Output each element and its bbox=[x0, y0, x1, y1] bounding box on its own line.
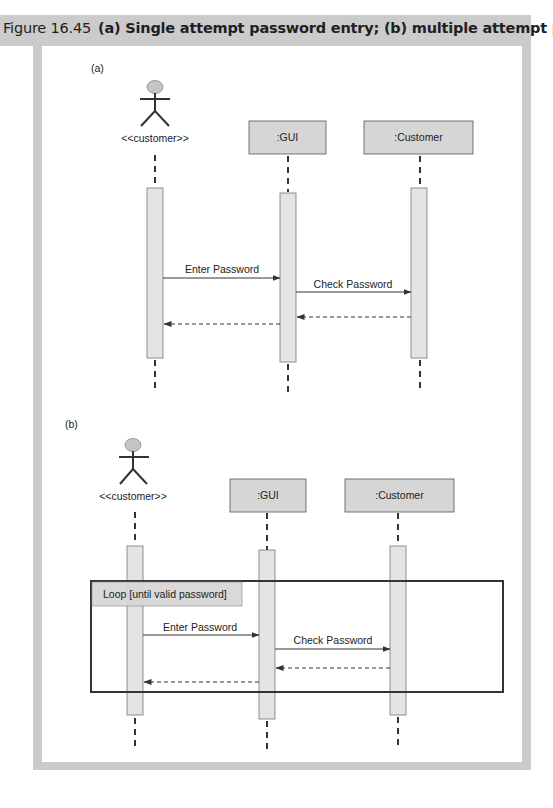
message-enter-password-a: Enter Password bbox=[163, 263, 280, 278]
activation-gui-a bbox=[280, 193, 296, 362]
diagram-b-label: (b) bbox=[65, 418, 78, 430]
message-check-password-b: Check Password bbox=[275, 634, 390, 649]
activation-actor-b bbox=[127, 546, 143, 715]
participant-gui: :GUI bbox=[249, 121, 326, 154]
activation-actor-a bbox=[147, 188, 163, 358]
actor-stick-figure-icon bbox=[119, 439, 149, 485]
diagram-b: (b) <<customer>> :GUI :Customer bbox=[65, 418, 503, 750]
activation-customer-b bbox=[390, 546, 406, 715]
participant-gui-label: :GUI bbox=[277, 131, 299, 143]
actor-label: <<customer>> bbox=[99, 490, 167, 502]
participant-gui: :GUI bbox=[230, 479, 306, 512]
participant-customer: :Customer bbox=[345, 479, 454, 512]
loop-fragment-label: Loop [until valid password] bbox=[103, 588, 227, 600]
message-enter-password-b: Enter Password bbox=[143, 621, 259, 635]
sequence-diagrams: (a) <<customer>> :GUI :Customer bbox=[0, 0, 553, 808]
participant-customer-label: :Customer bbox=[375, 489, 424, 501]
svg-text:Enter Password: Enter Password bbox=[163, 621, 237, 633]
diagram-a: (a) <<customer>> :GUI :Customer bbox=[91, 62, 473, 392]
svg-text:Enter Password: Enter Password bbox=[185, 263, 259, 275]
participant-gui-label: :GUI bbox=[257, 489, 279, 501]
diagram-a-label: (a) bbox=[91, 62, 104, 74]
actor-stick-figure-icon bbox=[140, 81, 170, 127]
actor-label: <<customer>> bbox=[121, 132, 189, 144]
participant-customer: :Customer bbox=[364, 121, 473, 154]
message-check-password-a: Check Password bbox=[296, 278, 411, 292]
activation-gui-b bbox=[259, 550, 275, 719]
activation-customer-a bbox=[411, 188, 427, 358]
participant-customer-label: :Customer bbox=[394, 131, 443, 143]
svg-text:Check Password: Check Password bbox=[294, 634, 373, 646]
svg-text:Check Password: Check Password bbox=[314, 278, 393, 290]
